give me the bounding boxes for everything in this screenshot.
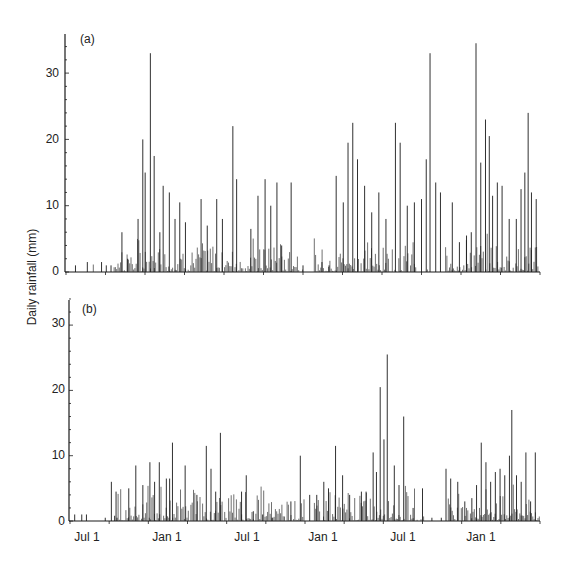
panel-b-label: (b) <box>82 302 97 316</box>
panel-b-ytick-0: 0 <box>41 514 65 528</box>
xtick-jan1-3: Jan 1 <box>466 530 495 544</box>
panel-a-ytick-30: 30 <box>35 66 59 80</box>
panel-a-ytick-10: 10 <box>35 198 59 212</box>
panel-b-ytick-10: 10 <box>41 448 65 462</box>
rainfall-plot <box>0 0 569 575</box>
xtick-jul1-1: Jul 1 <box>74 530 99 544</box>
panel-b-ytick-30: 30 <box>41 316 65 330</box>
y-axis-label: Daily rainfall (mm) <box>25 217 39 337</box>
rainfall-figure: (a) (b) 0 10 20 30 0 10 20 30 Daily rain… <box>0 0 569 575</box>
panel-a-ytick-20: 20 <box>35 132 59 146</box>
xtick-jan1-2: Jan 1 <box>308 530 337 544</box>
panel-b-ytick-20: 20 <box>41 382 65 396</box>
xtick-jul1-2: Jul 1 <box>234 530 259 544</box>
panel-a-label: (a) <box>80 32 95 46</box>
xtick-jul1-3: Jul 1 <box>390 530 415 544</box>
xtick-jan1-1: Jan 1 <box>152 530 181 544</box>
